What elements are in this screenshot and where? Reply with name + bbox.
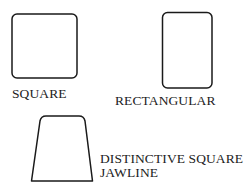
square-label: SQUARE <box>12 88 67 100</box>
square-jawline-face-outline <box>32 116 93 181</box>
rectangular-label: RECTANGULAR <box>115 95 216 107</box>
square-jawline-label-line2: JAWLINE <box>100 167 158 179</box>
square-face-outline <box>12 14 77 78</box>
square-jawline-label-line1: DISTINCTIVE SQUARE <box>100 153 243 165</box>
rectangular-face-outline <box>163 13 213 89</box>
